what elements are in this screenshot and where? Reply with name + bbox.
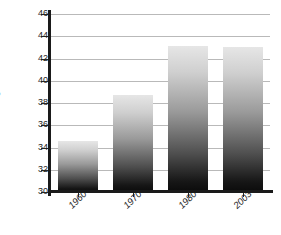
y-tick-label: 32 xyxy=(0,165,48,174)
bar xyxy=(223,47,263,192)
plot-area xyxy=(50,14,270,192)
y-tick-label-text: 42 xyxy=(24,54,48,63)
gridline xyxy=(50,14,270,15)
y-tick-label-text: 44 xyxy=(24,31,48,40)
bar xyxy=(168,46,208,192)
y-tick-label: 30 xyxy=(0,187,48,196)
y-tick-label: 36 xyxy=(0,120,48,129)
bar xyxy=(113,95,153,192)
y-tick-label-text: 34 xyxy=(24,143,48,152)
y-tick-label: 46 xyxy=(0,9,48,18)
y-tick-label-text: 40 xyxy=(24,76,48,85)
y-tick-label: 34 xyxy=(0,143,48,152)
y-axis-line xyxy=(48,10,51,196)
y-tick-label: 44 xyxy=(0,31,48,40)
y-tick-label-text: 36 xyxy=(24,120,48,129)
y-tick-label-text: 32 xyxy=(24,165,48,174)
y-tick-label-text: 30 xyxy=(24,187,48,196)
gridline xyxy=(50,36,270,37)
y-tick-label: 42 xyxy=(0,54,48,63)
y-tick-label: 38 xyxy=(0,98,48,107)
bar-chart: Age 303234363840424446 1960197019802003 xyxy=(0,0,281,235)
y-tick-label: 40 xyxy=(0,76,48,85)
y-tick-label-text: 38 xyxy=(24,98,48,107)
y-tick-label-text: 46 xyxy=(24,9,48,18)
bar xyxy=(58,141,98,192)
